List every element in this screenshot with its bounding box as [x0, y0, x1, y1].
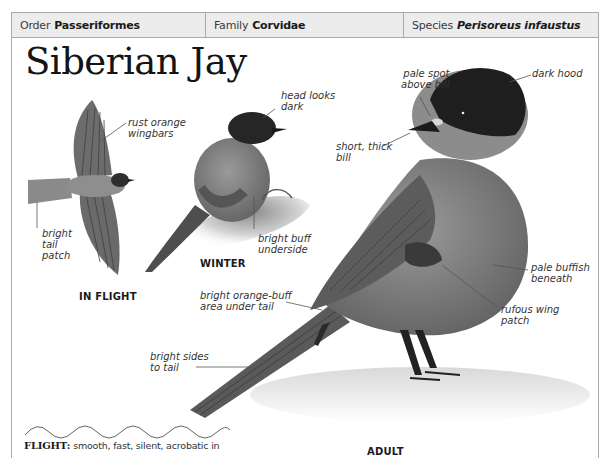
annot-wingbars: rust orange wingbars: [128, 117, 186, 139]
caption-in-flight: IN FLIGHT: [79, 291, 137, 302]
annot-short-thick-bill: short, thick bill: [336, 141, 392, 163]
annot-tail-patch: bright tail patch: [42, 228, 72, 261]
annot-undertail-area: bright orange-buff area under tail: [200, 290, 292, 312]
caption-adult: ADULT: [367, 446, 404, 457]
annot-buff-underside: bright buff underside: [258, 233, 311, 255]
annot-pale-buffish-beneath: pale buffish beneath: [531, 262, 590, 284]
caption-winter: WINTER: [200, 258, 246, 269]
annot-tail-sides: bright sides to tail: [150, 351, 209, 373]
flight-pattern-wave: [25, 426, 230, 438]
flight-text: smooth, fast, silent, acrobatic in: [73, 440, 219, 451]
bird-illustrations: [0, 0, 603, 458]
annot-head-dark: head looks dark: [281, 90, 335, 112]
flight-description: FLIGHT: smooth, fast, silent, acrobatic …: [24, 440, 219, 451]
annot-rufous-wing-patch: rufous wing patch: [501, 304, 559, 326]
annot-dark-hood: dark hood: [532, 68, 582, 79]
annot-pale-spot: pale spot above bill: [401, 68, 450, 90]
flight-label: FLIGHT:: [24, 440, 70, 451]
